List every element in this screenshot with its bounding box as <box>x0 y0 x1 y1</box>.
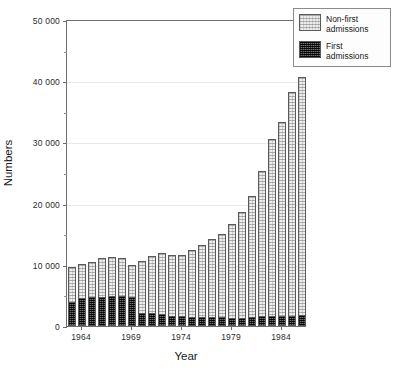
x-tick-mark <box>231 326 232 330</box>
bar-segment-first <box>88 297 96 326</box>
x-tick-label: 1979 <box>221 332 241 342</box>
bar-segment-first <box>158 314 166 326</box>
bar-segment-first <box>118 296 126 326</box>
bar-group <box>178 255 186 326</box>
bar-segment-first <box>78 298 86 326</box>
bar-segment-non-first <box>138 261 146 313</box>
x-axis-title: Year <box>174 350 197 362</box>
y-tick-label: 40 000 <box>33 77 60 87</box>
bar-segment-first <box>228 318 236 326</box>
legend-swatch-first <box>299 41 321 58</box>
bar-segment-non-first <box>78 264 86 299</box>
bar-segment-first <box>98 297 106 326</box>
bar-group <box>118 258 126 326</box>
x-tick-label: 1974 <box>171 332 191 342</box>
bar-segment-first <box>218 317 226 326</box>
bar-segment-first <box>128 297 136 326</box>
bar-segment-first <box>268 316 276 326</box>
x-tick-mark <box>281 326 282 330</box>
x-tick-mark <box>181 326 182 330</box>
bar-group <box>98 258 106 326</box>
bar-series-layer <box>67 21 306 326</box>
bar-group <box>108 257 116 326</box>
legend-label-first: First admissions <box>326 41 384 61</box>
bar-segment-non-first <box>268 139 276 316</box>
bar-segment-first <box>68 302 76 326</box>
bar-group <box>208 239 216 326</box>
chart-figure: Numbers 010 00020 00030 00040 00050 000 … <box>0 0 395 375</box>
y-tick-label: 10 000 <box>33 261 60 271</box>
x-axis-ticks: 19641969197419791984 <box>66 326 306 346</box>
bar-segment-non-first <box>68 267 76 301</box>
bar-segment-non-first <box>128 265 136 297</box>
bar-segment-non-first <box>298 77 306 315</box>
bar-group <box>218 234 226 326</box>
bar-segment-first <box>148 313 156 326</box>
bar-group <box>288 92 296 326</box>
bar-segment-first <box>248 317 256 326</box>
bar-segment-non-first <box>118 258 126 296</box>
bar-group <box>88 262 96 326</box>
bar-group <box>168 255 176 326</box>
bar-segment-non-first <box>258 171 266 317</box>
bar-group <box>138 261 146 326</box>
bar-group <box>258 171 266 326</box>
bar-segment-non-first <box>158 253 166 314</box>
bar-group <box>158 253 166 326</box>
bar-segment-non-first <box>248 196 256 317</box>
y-tick-label: 20 000 <box>33 200 60 210</box>
bar-group <box>78 264 86 326</box>
bar-group <box>148 256 156 326</box>
bar-segment-first <box>178 316 186 326</box>
legend-item-non-first-admissions: Non-first admissions <box>299 14 384 34</box>
bar-group <box>238 212 246 326</box>
bar-segment-non-first <box>88 262 96 297</box>
y-tick-label: 50 000 <box>33 16 60 26</box>
bar-segment-non-first <box>198 245 206 317</box>
bar-group <box>68 267 76 326</box>
y-tick-label: 30 000 <box>33 138 60 148</box>
bar-segment-non-first <box>148 256 156 312</box>
x-tick-label: 1969 <box>121 332 141 342</box>
x-tick-label: 1964 <box>71 332 91 342</box>
bar-group <box>128 265 136 326</box>
bar-segment-non-first <box>188 250 196 317</box>
bar-group <box>268 139 276 326</box>
x-tick-mark <box>81 326 82 330</box>
bar-segment-first <box>208 317 216 326</box>
x-tick-label: 1984 <box>271 332 291 342</box>
bar-segment-first <box>298 315 306 326</box>
bar-segment-first <box>168 316 176 326</box>
chart-legend: Non-first admissions First admissions <box>293 8 391 67</box>
bar-segment-non-first <box>108 257 116 296</box>
bar-group <box>188 250 196 327</box>
x-tick-mark <box>131 326 132 330</box>
bar-segment-first <box>288 316 296 326</box>
bar-segment-first <box>278 316 286 326</box>
plot-area: 010 00020 00030 00040 00050 000 <box>66 20 306 326</box>
bar-segment-non-first <box>278 122 286 316</box>
bar-group <box>248 196 256 326</box>
bar-segment-non-first <box>168 255 176 316</box>
bar-segment-first <box>258 316 266 326</box>
bar-segment-non-first <box>208 239 216 317</box>
bar-segment-first <box>238 318 246 326</box>
bar-segment-non-first <box>218 234 226 317</box>
bar-segment-non-first <box>228 224 236 318</box>
bar-group <box>278 122 286 326</box>
bar-segment-non-first <box>288 92 296 316</box>
bar-segment-non-first <box>98 258 106 297</box>
legend-label-non-first: Non-first admissions <box>326 14 384 34</box>
bar-segment-first <box>138 313 146 326</box>
bar-segment-first <box>198 317 206 326</box>
bar-segment-first <box>108 296 116 326</box>
y-tick-label: 0 <box>55 322 60 332</box>
legend-swatch-non-first <box>299 14 321 31</box>
legend-item-first-admissions: First admissions <box>299 41 384 61</box>
bar-group <box>198 245 206 326</box>
bar-segment-non-first <box>178 255 186 316</box>
bar-group <box>298 77 306 326</box>
bar-segment-non-first <box>238 212 246 318</box>
bar-group <box>228 224 236 326</box>
y-axis-title: Numbers <box>2 140 14 187</box>
